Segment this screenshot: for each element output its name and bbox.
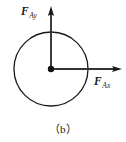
horizontal-force-symbol: F: [94, 75, 102, 87]
horizontal-force-subscript: Ax: [102, 81, 110, 90]
horizontal-force-label: FAx: [94, 76, 110, 88]
vertical-force-symbol: F: [21, 5, 29, 17]
vertical-force-subscript: Ay: [29, 11, 37, 20]
figure-caption: （b）: [0, 120, 126, 136]
free-body-diagram-figure: FAy FAx （b）: [0, 0, 126, 142]
vertical-force-label: FAy: [21, 6, 37, 18]
center-point-dot: [48, 66, 54, 72]
